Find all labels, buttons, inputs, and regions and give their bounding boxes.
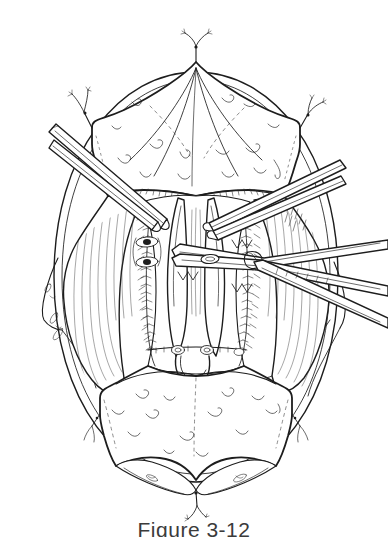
- muscle-left: [64, 196, 155, 394]
- bottom-apex-suture: [185, 491, 209, 521]
- apex-suture: [181, 29, 212, 62]
- figure-caption: Figure 3-12: [0, 519, 388, 537]
- corner-suture-left: [68, 87, 92, 128]
- drape-bottom: [84, 366, 308, 521]
- corner-suture-right: [300, 95, 326, 128]
